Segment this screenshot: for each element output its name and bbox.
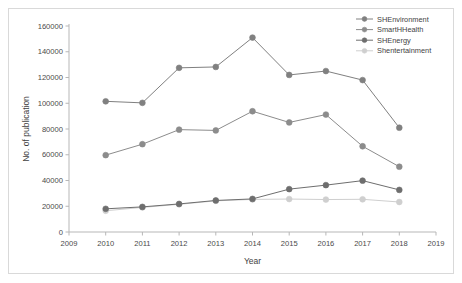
y-axis-tick-label: 0	[59, 228, 63, 237]
data-point-marker	[250, 108, 256, 114]
data-point-marker	[176, 201, 182, 207]
legend-item-label: SHEnergy	[377, 36, 411, 45]
data-point-marker	[396, 199, 402, 205]
legend-marker-icon	[362, 27, 367, 32]
legend-marker-icon	[362, 38, 367, 43]
x-axis-tick-label: 2012	[171, 239, 188, 248]
x-axis-tick-label: 2010	[97, 239, 114, 248]
legend-marker-icon	[362, 17, 367, 22]
x-axis-tick-label: 2016	[317, 239, 334, 248]
data-point-marker	[213, 198, 219, 204]
data-point-marker	[103, 152, 109, 158]
data-point-marker	[176, 65, 182, 71]
y-axis-tick-label: 40000	[42, 176, 63, 185]
data-point-marker	[323, 182, 329, 188]
data-point-marker	[140, 141, 146, 147]
data-point-marker	[250, 35, 256, 41]
data-point-marker	[286, 186, 292, 192]
chart-legend: SHEnvironmentSmartHHealthSHEnergyShenter…	[356, 15, 431, 56]
data-point-marker	[396, 164, 402, 170]
x-axis-tick-label: 2009	[61, 239, 78, 248]
data-point-marker	[360, 77, 366, 83]
data-point-marker	[213, 64, 219, 70]
data-point-marker	[360, 143, 366, 149]
data-point-marker	[103, 98, 109, 104]
data-point-marker	[176, 127, 182, 133]
data-point-marker	[250, 196, 256, 202]
data-point-marker	[323, 68, 329, 74]
series-shenergy	[103, 178, 402, 212]
chart-figure: 0200004000060000800001000001200001400001…	[0, 0, 462, 283]
y-axis-tick-label: 20000	[42, 202, 63, 211]
legend-item-label: SHEnvironment	[377, 15, 429, 24]
y-axis-tick-label: 80000	[42, 125, 63, 134]
plot-frame: 0200004000060000800001000001200001400001…	[8, 8, 454, 274]
series-shenvironment	[103, 35, 402, 131]
y-axis-title: No. of publication	[21, 96, 31, 162]
x-axis-tick-label: 2019	[428, 239, 445, 248]
line-chart: 0200004000060000800001000001200001400001…	[9, 9, 453, 273]
legend-item-label: SmartHHealth	[377, 25, 423, 34]
x-axis-tick-label: 2013	[207, 239, 224, 248]
series-smarthhealth	[103, 108, 402, 169]
data-point-marker	[140, 100, 146, 106]
data-point-marker	[396, 187, 402, 193]
x-axis-tick-label: 2011	[134, 239, 150, 248]
data-point-marker	[323, 197, 329, 203]
x-axis-tick-label: 2017	[354, 239, 371, 248]
legend-item-label: Shentertainment	[377, 46, 431, 55]
y-axis-tick-label: 120000	[38, 73, 63, 82]
data-point-marker	[103, 206, 109, 212]
data-point-marker	[360, 196, 366, 202]
data-point-marker	[286, 120, 292, 126]
data-point-marker	[323, 112, 329, 118]
y-axis-tick-label: 100000	[38, 99, 63, 108]
x-axis-tick-label: 2015	[281, 239, 298, 248]
y-axis-tick-label: 160000	[38, 22, 63, 31]
data-point-marker	[213, 128, 219, 134]
data-point-marker	[396, 125, 402, 131]
x-axis-tick-label: 2018	[391, 239, 408, 248]
x-axis-title: Year	[244, 256, 261, 266]
y-axis-tick-label: 140000	[38, 47, 63, 56]
legend-marker-icon	[362, 48, 367, 53]
data-point-marker	[286, 72, 292, 78]
y-axis-tick-label: 60000	[42, 150, 63, 159]
data-point-marker	[286, 196, 292, 202]
data-point-marker	[140, 204, 146, 210]
series-line	[106, 181, 400, 209]
data-point-marker	[360, 178, 366, 184]
series-line	[106, 111, 400, 166]
x-axis-tick-label: 2014	[244, 239, 261, 248]
